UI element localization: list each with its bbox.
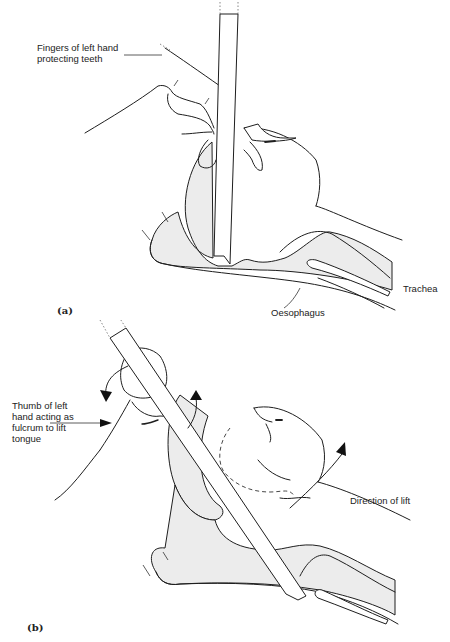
direction-of-lift-label: Direction of lift [350, 495, 410, 506]
thumb-label: Thumb of left hand acting as fulcrum to … [12, 400, 74, 444]
panel-label-a: (a) [57, 305, 73, 316]
thumb-label-line-3: fulcrum to lift [12, 422, 74, 433]
thumb-label-line-2: hand acting as [12, 411, 74, 422]
trachea-label: Trachea [403, 283, 438, 294]
thumb-label-line-4: tongue [12, 433, 74, 444]
left-hand-fingers [85, 85, 214, 133]
figure-b: Thumb of left hand acting as fulcrum to … [0, 320, 450, 642]
laryngoscope-blade [214, 14, 238, 264]
thumb-label-line-1: Thumb of left [12, 400, 74, 411]
panel-label-b: (b) [27, 622, 43, 633]
fingers-label-line-2: protecting teeth [37, 53, 118, 64]
fingers-label: Fingers of left hand protecting teeth [37, 42, 118, 64]
figure-a: Fingers of left hand protecting teeth Tr… [0, 0, 450, 320]
direction-of-lift-arrow [290, 454, 342, 508]
figure-b-drawing [0, 320, 450, 642]
oesophagus-label: Oesophagus [271, 307, 325, 318]
fingers-label-line-1: Fingers of left hand [37, 42, 118, 53]
